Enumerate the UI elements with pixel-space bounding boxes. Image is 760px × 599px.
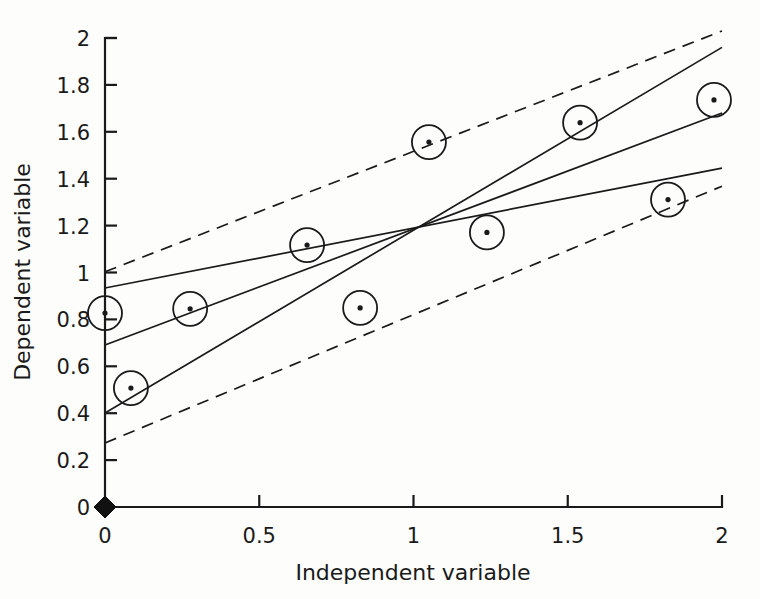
y-tick-label-9: 1.8 xyxy=(57,74,90,98)
data-point-9 xyxy=(697,83,731,117)
data-point-4 xyxy=(343,291,377,325)
series-line-3 xyxy=(105,47,722,413)
x-tick-labels: 00.511.52 xyxy=(98,524,728,548)
x-tick-label-0: 0 xyxy=(98,524,111,548)
data-point-8 xyxy=(651,183,685,217)
data-point-3 xyxy=(290,228,324,262)
y-tick-label-2: 0.4 xyxy=(57,402,90,426)
y-tick-label-10: 2 xyxy=(77,27,90,51)
axes xyxy=(105,38,722,507)
series-line-0 xyxy=(105,31,722,272)
data-point-dot-9 xyxy=(711,97,716,102)
data-point-7 xyxy=(563,106,597,140)
y-tick-label-6: 1.2 xyxy=(57,215,90,239)
data-point-dot-2 xyxy=(188,306,193,311)
x-tick-label-1: 0.5 xyxy=(243,524,276,548)
data-point-dot-6 xyxy=(484,230,489,235)
x-tick-label-3: 1.5 xyxy=(551,524,584,548)
scatter-plot-svg: 00.20.40.60.811.21.41.61.82 00.511.52 In… xyxy=(0,0,760,599)
x-tick-label-2: 1 xyxy=(407,524,420,548)
data-point-dot-3 xyxy=(304,242,309,247)
series-line-4 xyxy=(105,186,722,443)
y-tick-marks xyxy=(105,38,117,460)
data-point-6 xyxy=(470,215,504,249)
data-point-1 xyxy=(114,371,148,405)
origin-diamond-marker xyxy=(94,496,116,518)
plot-lines xyxy=(105,31,722,443)
y-tick-label-1: 0.2 xyxy=(57,449,90,473)
y-tick-label-4: 0.8 xyxy=(57,308,90,332)
data-point-dot-4 xyxy=(358,305,363,310)
data-point-5 xyxy=(412,125,446,159)
y-tick-label-5: 1 xyxy=(77,262,90,286)
y-axis-title: Dependent variable xyxy=(10,163,35,381)
data-point-dot-8 xyxy=(665,197,670,202)
y-tick-label-7: 1.4 xyxy=(57,168,90,192)
x-axis-title: Independent variable xyxy=(295,560,530,585)
x-tick-marks xyxy=(259,495,568,507)
data-points xyxy=(88,83,731,405)
y-tick-label-3: 0.6 xyxy=(57,355,90,379)
data-point-dot-7 xyxy=(577,120,582,125)
data-point-dot-1 xyxy=(128,386,133,391)
chart-figure: 00.20.40.60.811.21.41.61.82 00.511.52 In… xyxy=(0,0,760,599)
data-point-dot-5 xyxy=(426,140,431,145)
series-line-1 xyxy=(105,168,722,288)
y-tick-label-8: 1.6 xyxy=(57,121,90,145)
x-tick-label-4: 2 xyxy=(715,524,728,548)
y-tick-label-0: 0 xyxy=(77,496,90,520)
data-point-dot-0 xyxy=(102,310,107,315)
y-tick-labels: 00.20.40.60.811.21.41.61.82 xyxy=(57,27,90,520)
